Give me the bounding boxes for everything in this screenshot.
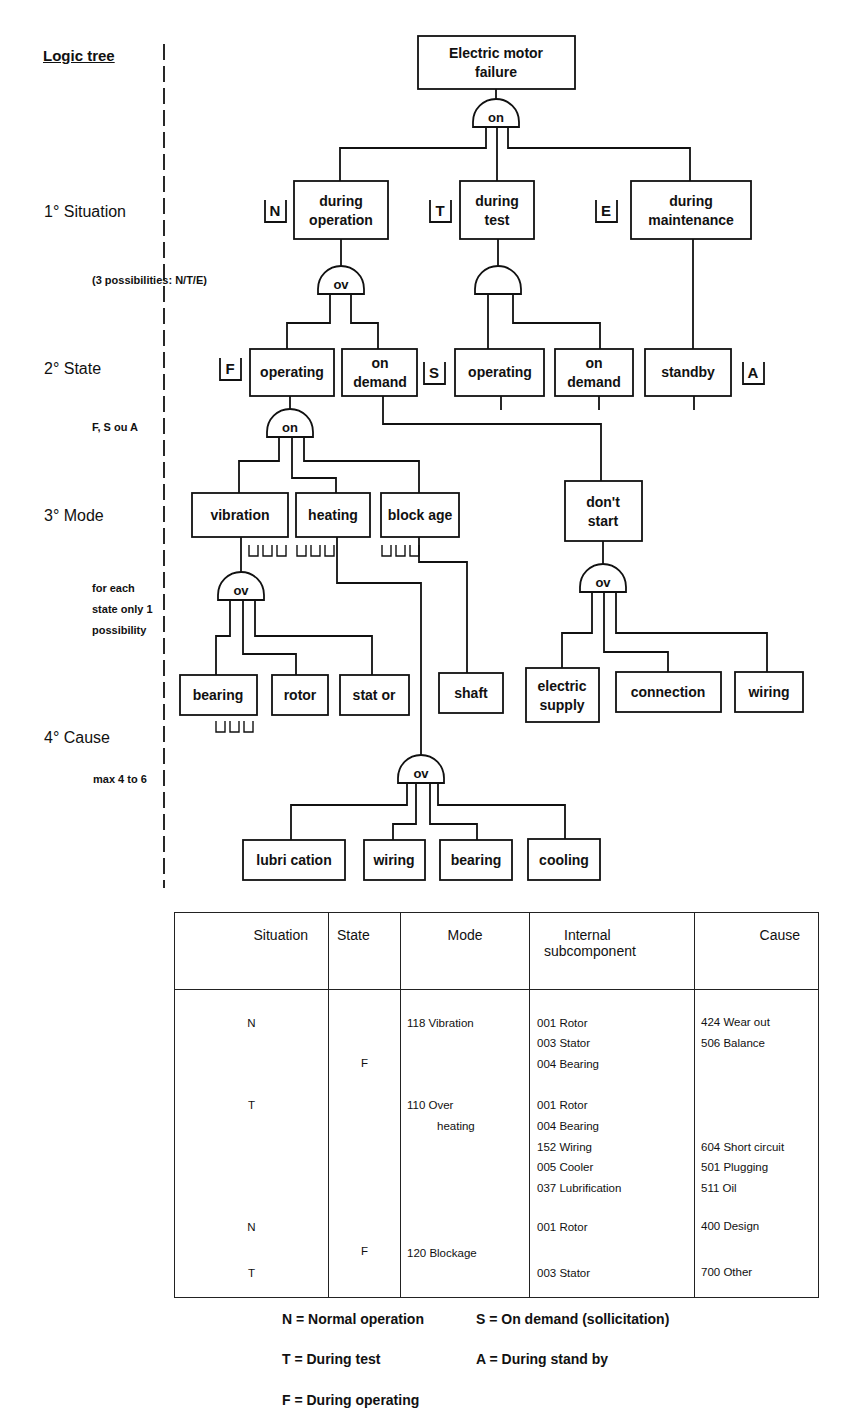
legend-item-2: T = During test [282, 1351, 380, 1367]
mode-cell-1: 110 Over [407, 1099, 453, 1111]
cause-vibration-1: rotor [284, 687, 317, 703]
col-cause: 424 Wear out506 Balance604 Short circuit… [695, 990, 819, 1298]
gate-label-operating_gate: on [282, 420, 298, 435]
failure-code-table: Situation State Mode Internal subcompone… [174, 912, 819, 1298]
cause-heating-3: cooling [539, 852, 589, 868]
legend-item-0: N = Normal operation [282, 1311, 424, 1327]
box-during-test [460, 181, 534, 239]
box-cause-electric-supply [526, 668, 599, 722]
gate-label-operation_gate: ov [333, 277, 349, 292]
gate-test [475, 266, 521, 294]
mode-label-0: vibration [210, 507, 269, 523]
state-label-2: operating [468, 364, 532, 380]
situation-code-N: N [270, 202, 281, 219]
header-internal-line-2: subcomponent [544, 943, 686, 959]
state-cell-1: F [330, 1245, 399, 1257]
cause-cell-0: 424 Wear out [701, 1016, 770, 1028]
col-situation: NTNT [175, 990, 329, 1298]
situation-cell-3: T [176, 1267, 327, 1279]
cause-cell-4: 511 Oil [701, 1182, 737, 1194]
legend-item-1: S = On demand (sollicitation) [476, 1311, 669, 1327]
header-internal-line-1: Internal [544, 927, 686, 943]
state-cell-0: F [330, 1057, 399, 1069]
cause-dont-start-2: wiring [747, 684, 789, 700]
situation-cell-0: N [176, 1017, 327, 1029]
subcomponent-cell-4: 004 Bearing [537, 1120, 599, 1132]
box-during-operation [294, 181, 388, 239]
uuu-marks-blockage [382, 545, 419, 556]
state-label-0: operating [260, 364, 324, 380]
mode-cell-3: 120 Blockage [407, 1247, 477, 1259]
header-internal-subcomponent: Internal subcomponent [530, 913, 695, 990]
uuu-marks-bearing [216, 721, 253, 732]
state-label-4: standby [661, 364, 715, 380]
cause-heating-2: bearing [451, 852, 502, 868]
situation-code-E: E [601, 202, 611, 219]
state-code-S: S [429, 364, 439, 381]
header-mode: Mode [401, 913, 530, 990]
box-during-maintenance [631, 181, 751, 239]
subcomponent-cell-8: 001 Rotor [537, 1221, 588, 1233]
subcomponent-cell-2: 004 Bearing [537, 1058, 599, 1070]
cause-heating-0: lubri cation [256, 852, 331, 868]
fault-tree-diagram: Electric motorfailureonovonovovovduringo… [0, 0, 862, 900]
cause-cell-2: 604 Short circuit [701, 1141, 784, 1153]
mode-label-2: block age [388, 507, 453, 523]
mode-label-1: heating [308, 507, 358, 523]
gate-label-dontstart_gate: ov [595, 575, 611, 590]
col-subcomponent: 001 Rotor003 Stator004 Bearing001 Rotor0… [530, 990, 695, 1298]
situation-cell-1: T [176, 1099, 327, 1111]
subcomponent-cell-7: 037 Lubrification [537, 1182, 621, 1194]
cause-blockage-0: shaft [454, 685, 488, 701]
cause-dont-start-1: connection [631, 684, 706, 700]
cause-vibration-2: stat or [353, 687, 396, 703]
gate-label-vibration_gate: ov [233, 583, 249, 598]
cause-cell-1: 506 Balance [701, 1037, 765, 1049]
subcomponent-cell-5: 152 Wiring [537, 1141, 592, 1153]
cause-cell-3: 501 Plugging [701, 1161, 768, 1173]
cause-vibration-0: bearing [193, 687, 244, 703]
mode-cell-0: 118 Vibration [407, 1017, 474, 1029]
gate-label-heating_gate: ov [413, 766, 429, 781]
subcomponent-cell-3: 001 Rotor [537, 1099, 588, 1111]
legend-item-3: A = During stand by [476, 1351, 608, 1367]
state-code-A: A [748, 364, 759, 381]
header-cause: Cause [695, 913, 819, 990]
col-state: FF [329, 990, 401, 1298]
uuu-marks-heating [297, 545, 334, 556]
legend-item-4: F = During operating [282, 1392, 419, 1408]
col-mode: 118 Vibration110 Overheating120 Blockage [401, 990, 530, 1298]
cause-cell-6: 700 Other [701, 1266, 752, 1278]
box-mode-dont-start [565, 481, 642, 541]
subcomponent-cell-1: 003 Stator [537, 1037, 590, 1049]
header-situation: Situation [175, 913, 329, 990]
mode-cell-2: heating [437, 1120, 475, 1132]
state-code-F: F [225, 360, 234, 377]
gate-label-root_gate: on [488, 110, 504, 125]
situation-code-T: T [435, 202, 444, 219]
subcomponent-cell-0: 001 Rotor [537, 1017, 588, 1029]
subcomponent-cell-9: 003 Stator [537, 1267, 590, 1279]
subcomponent-cell-6: 005 Cooler [537, 1161, 593, 1173]
cause-heating-1: wiring [372, 852, 414, 868]
uuu-marks-vibration [249, 545, 286, 556]
situation-cell-2: N [176, 1221, 327, 1233]
header-state: State [329, 913, 401, 990]
cause-cell-5: 400 Design [701, 1220, 759, 1232]
